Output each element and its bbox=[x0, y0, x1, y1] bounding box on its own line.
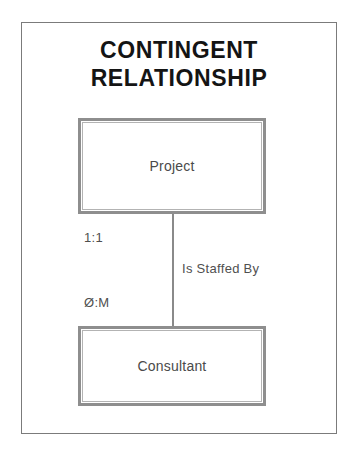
cardinality-label-far: Ø:M bbox=[84, 295, 109, 310]
entity-label-consultant: Consultant bbox=[81, 358, 263, 374]
entity-box-project[interactable]: Project bbox=[78, 118, 266, 214]
diagram-title: CONTINGENT RELATIONSHIP bbox=[30, 36, 328, 92]
diagram-canvas: CONTINGENT RELATIONSHIP Project 1:1 Is S… bbox=[0, 0, 359, 456]
entity-label-project: Project bbox=[81, 158, 263, 174]
relationship-connector-line bbox=[172, 214, 174, 326]
cardinality-label-near: 1:1 bbox=[84, 230, 103, 245]
relationship-label: Is Staffed By bbox=[182, 261, 259, 276]
entity-box-consultant[interactable]: Consultant bbox=[78, 326, 266, 406]
